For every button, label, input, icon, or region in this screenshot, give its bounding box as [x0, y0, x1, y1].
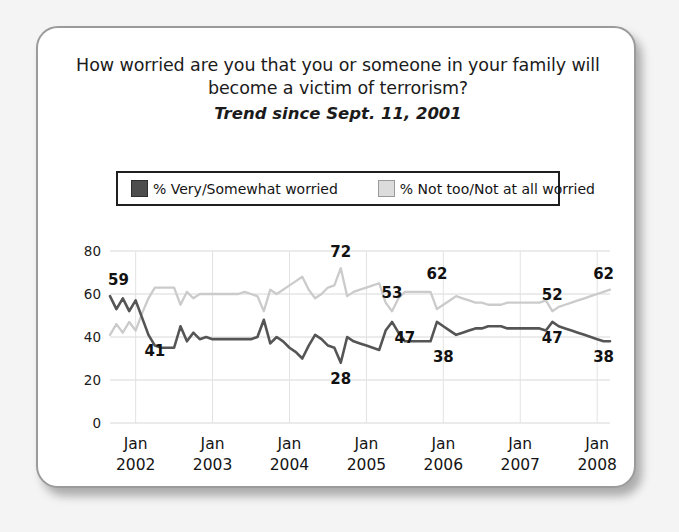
legend-swatch-icon-light [378, 180, 395, 197]
legend-label-very-somewhat-worried: % Very/Somewhat worried [153, 181, 338, 197]
y-axis-tick-label: 40 [84, 329, 101, 345]
data-point-label: 52 [542, 286, 563, 304]
legend-item-not-too-not-at-all-worried: % Not too/Not at all worried [378, 173, 595, 204]
data-point-label: 62 [426, 265, 447, 283]
x-axis-tick-year: 2008 [577, 456, 616, 474]
data-point-label: 62 [593, 265, 614, 283]
data-point-label: 28 [330, 370, 351, 388]
x-axis-tick-year: 2002 [116, 456, 155, 474]
x-axis-tick-year: 2004 [270, 456, 309, 474]
line-chart-svg: 020406080Jan2002Jan2003Jan2004Jan2005Jan… [48, 233, 628, 478]
data-point-label: 47 [394, 329, 415, 347]
y-axis-tick-label: 60 [84, 286, 101, 302]
chart-plot-area: 020406080Jan2002Jan2003Jan2004Jan2005Jan… [48, 233, 628, 478]
y-axis-tick-label: 0 [92, 415, 101, 431]
x-axis-tick-month: Jan [277, 435, 302, 453]
legend-swatch-icon-dark [131, 180, 148, 197]
legend-label-not-too-not-at-all-worried: % Not too/Not at all worried [400, 181, 595, 197]
data-point-label: 38 [433, 348, 454, 366]
data-point-label: 47 [542, 329, 563, 347]
x-axis-tick-month: Jan [507, 435, 532, 453]
x-axis-tick-month: Jan [353, 435, 378, 453]
x-axis-tick-year: 2007 [501, 456, 540, 474]
data-point-label: 53 [382, 284, 403, 302]
data-point-label: 41 [144, 342, 165, 360]
title-block: How worried are you that you or someone … [52, 54, 624, 126]
y-axis-tick-label: 20 [84, 372, 101, 388]
page-title-line-2: become a victim of terrorism? [52, 77, 624, 100]
x-axis-tick-month: Jan [430, 435, 455, 453]
x-axis-tick-year: 2006 [424, 456, 463, 474]
chart-legend: % Very/Somewhat worried % Not too/Not at… [116, 171, 560, 206]
data-point-label: 38 [593, 348, 614, 366]
x-axis-tick-year: 2005 [347, 456, 386, 474]
page-title-line-1: How worried are you that you or someone … [52, 54, 624, 77]
chart-line-series [110, 296, 610, 363]
page-subtitle: Trend since Sept. 11, 2001 [52, 102, 624, 126]
page-background: How worried are you that you or someone … [0, 0, 679, 532]
legend-item-very-somewhat-worried: % Very/Somewhat worried [131, 173, 338, 204]
chart-line-series [110, 268, 610, 335]
data-point-label: 72 [330, 243, 351, 261]
chart-card: How worried are you that you or someone … [36, 26, 636, 488]
data-point-label: 59 [108, 271, 129, 289]
x-axis-tick-month: Jan [123, 435, 148, 453]
x-axis-tick-month: Jan [200, 435, 225, 453]
x-axis-tick-month: Jan [584, 435, 609, 453]
x-axis-tick-year: 2003 [193, 456, 232, 474]
y-axis-tick-label: 80 [84, 243, 101, 259]
